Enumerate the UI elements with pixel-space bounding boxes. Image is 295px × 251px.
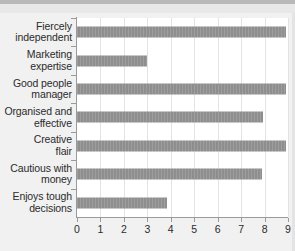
x-axis-tick <box>147 218 148 222</box>
x-axis-tick <box>288 218 289 222</box>
x-axis-tick <box>241 218 242 222</box>
category-label-line: effective <box>0 118 72 130</box>
category-axis-labels: FiercelyindependentMarketingexpertiseGoo… <box>0 18 72 217</box>
category-label-line: money <box>0 174 72 186</box>
right-edge-band <box>292 13 295 251</box>
category-label: Fiercelyindependent <box>0 21 72 44</box>
x-axis-tick-label: 4 <box>161 223 181 235</box>
plot-area <box>77 18 288 217</box>
x-axis-tick <box>171 218 172 222</box>
bar <box>77 84 286 95</box>
bar-row <box>77 189 288 217</box>
bar <box>77 169 262 180</box>
bar-row <box>77 75 288 103</box>
category-label-line: independent <box>0 32 72 44</box>
bar <box>77 55 147 66</box>
x-axis-tick-label: 2 <box>114 223 134 235</box>
x-axis-tick-label: 5 <box>184 223 204 235</box>
bar-series <box>77 18 288 217</box>
bar-row <box>77 132 288 160</box>
category-label: Cautious withmoney <box>0 163 72 186</box>
chart-figure: FiercelyindependentMarketingexpertiseGoo… <box>0 0 295 251</box>
x-axis-tick-label: 9 <box>278 223 295 235</box>
x-axis-tick <box>100 218 101 222</box>
category-label: Enjoys toughdecisions <box>0 191 72 214</box>
value-axis-labels: 0123456789 <box>77 218 288 238</box>
top-band-light <box>0 4 295 13</box>
x-axis-tick-label: 0 <box>67 223 87 235</box>
category-label-line: Marketing <box>0 49 72 61</box>
bar <box>77 27 286 38</box>
category-label: Good peoplemanager <box>0 78 72 101</box>
bar-row <box>77 160 288 188</box>
bar-row <box>77 18 288 46</box>
x-axis-tick <box>218 218 219 222</box>
x-axis-tick <box>265 218 266 222</box>
x-axis-tick-label: 3 <box>137 223 157 235</box>
bar <box>77 197 167 208</box>
x-axis-tick-label: 8 <box>255 223 275 235</box>
bar <box>77 112 263 123</box>
x-axis-tick <box>194 218 195 222</box>
category-label: Creativeflair <box>0 134 72 157</box>
gridline <box>288 18 289 217</box>
bar <box>77 140 286 151</box>
bar-row <box>77 46 288 74</box>
category-label: Organised andeffective <box>0 106 72 129</box>
category-label-line: decisions <box>0 203 72 215</box>
category-label-line: flair <box>0 146 72 158</box>
category-label-line: Organised and <box>0 106 72 118</box>
category-label: Marketingexpertise <box>0 49 72 72</box>
x-axis-tick <box>124 218 125 222</box>
category-label-line: manager <box>0 89 72 101</box>
x-axis-tick <box>77 218 78 222</box>
x-axis-tick-label: 7 <box>231 223 251 235</box>
x-axis-tick-label: 1 <box>90 223 110 235</box>
bar-row <box>77 103 288 131</box>
category-label-line: expertise <box>0 61 72 73</box>
x-axis-tick-label: 6 <box>208 223 228 235</box>
